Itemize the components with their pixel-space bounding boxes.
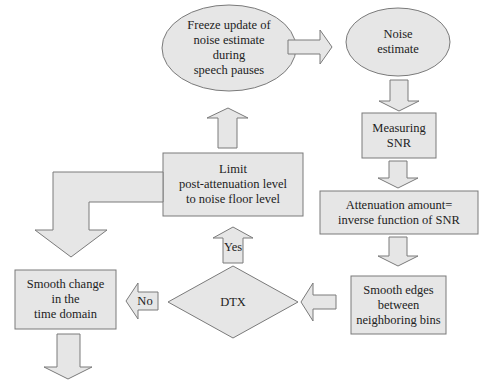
smooth-time-label: Smooth change in the time domain	[15, 270, 116, 329]
no-label: No	[132, 292, 158, 310]
limit-label: Limit post-attenuation level to noise fl…	[163, 153, 303, 216]
smooth-edges-label: Smooth edges between neighboring bins	[351, 276, 446, 334]
arrow-left-to-dtx	[301, 283, 336, 321]
yes-label: Yes	[218, 238, 248, 256]
arrow-down-to-measuring-snr	[379, 80, 419, 111]
arrow-up-to-freeze	[207, 108, 248, 148]
noise-estimate-label: Noise estimate	[346, 10, 450, 74]
attenuation-label: Attenuation amount= inverse function of …	[320, 191, 478, 234]
arrow-down-to-smooth-edges	[378, 237, 418, 266]
bent-arrow-to-smooth-time	[35, 172, 163, 257]
measuring-snr-label: Measuring SNR	[362, 113, 436, 158]
freeze-update-label: Freeze update of noise estimate during s…	[162, 10, 296, 86]
arrow-down-to-attenuation	[378, 161, 418, 188]
arrow-down-output	[44, 334, 92, 379]
dtx-label: DTX	[198, 292, 268, 312]
